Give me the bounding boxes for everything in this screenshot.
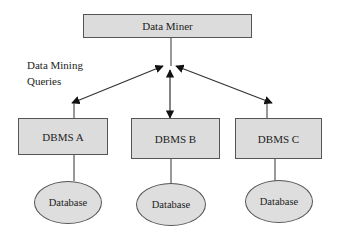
annotation-line2: Queries	[27, 75, 61, 87]
dbms-b-label: DBMS B	[155, 133, 196, 145]
dbms-c-node: DBMS C	[235, 118, 322, 159]
database-a: Database	[34, 181, 102, 224]
data-miner-label: Data Miner	[142, 20, 192, 32]
arrow-to-dbms-a	[72, 66, 163, 103]
dbms-c-label: DBMS C	[258, 133, 299, 145]
dbms-a-node: DBMS A	[18, 118, 108, 155]
database-a-label: Database	[49, 197, 87, 208]
diagram-canvas: Data Miner Data Mining Queries DBMS A DB…	[0, 0, 340, 243]
database-b: Database	[136, 183, 206, 226]
annotation-line1: Data Mining	[27, 59, 83, 71]
database-b-label: Database	[152, 199, 190, 210]
database-c-label: Database	[260, 196, 298, 207]
dbms-b-node: DBMS B	[131, 118, 220, 159]
data-miner-node: Data Miner	[83, 14, 252, 38]
arrow-to-dbms-c	[176, 66, 272, 103]
dbms-a-label: DBMS A	[42, 131, 83, 143]
database-c: Database	[245, 180, 313, 223]
